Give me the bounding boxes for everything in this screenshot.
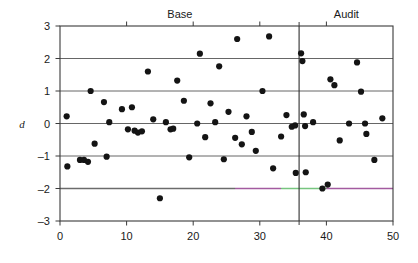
data-point bbox=[92, 141, 98, 147]
data-point bbox=[292, 122, 298, 128]
data-point bbox=[253, 148, 259, 154]
data-point bbox=[163, 119, 169, 125]
y-tick-label: –3 bbox=[38, 215, 50, 227]
x-tick-label: 30 bbox=[254, 230, 266, 242]
data-point bbox=[270, 165, 276, 171]
x-tick-label: 50 bbox=[387, 230, 399, 242]
data-point bbox=[299, 58, 305, 64]
scatter-plot-figure: 010203040503210–1–2–3dBaseAudit bbox=[0, 0, 418, 263]
y-tick-label: 3 bbox=[44, 20, 50, 32]
data-point bbox=[170, 126, 176, 132]
chart-canvas: 010203040503210–1–2–3dBaseAudit bbox=[0, 0, 418, 263]
y-axis-title: d bbox=[19, 118, 25, 130]
data-point bbox=[266, 33, 272, 39]
data-point bbox=[337, 137, 343, 143]
data-point bbox=[197, 51, 203, 57]
panel-label: Base bbox=[167, 8, 192, 20]
data-point bbox=[139, 128, 145, 134]
data-point bbox=[325, 182, 331, 188]
data-point bbox=[243, 113, 249, 119]
data-point bbox=[234, 36, 240, 42]
x-tick-label: 10 bbox=[120, 230, 132, 242]
data-point bbox=[221, 156, 227, 162]
data-point bbox=[362, 120, 368, 126]
data-point bbox=[298, 50, 304, 56]
data-point bbox=[157, 195, 163, 201]
data-point bbox=[331, 82, 337, 88]
x-tick-label: 40 bbox=[320, 230, 332, 242]
data-point bbox=[101, 99, 107, 105]
data-point bbox=[64, 163, 70, 169]
data-point bbox=[119, 106, 125, 112]
data-point bbox=[212, 119, 218, 125]
data-point bbox=[145, 68, 151, 74]
x-tick-label: 0 bbox=[57, 230, 63, 242]
data-point bbox=[358, 89, 364, 95]
data-point bbox=[106, 119, 112, 125]
data-point bbox=[354, 59, 360, 65]
data-point bbox=[181, 98, 187, 104]
panel-label: Audit bbox=[334, 8, 359, 20]
data-point bbox=[249, 129, 255, 135]
data-point bbox=[186, 154, 192, 160]
data-point bbox=[310, 119, 316, 125]
y-tick-label: 2 bbox=[44, 53, 50, 65]
data-point bbox=[259, 88, 265, 94]
data-point bbox=[207, 100, 213, 106]
data-point bbox=[232, 135, 238, 141]
data-point bbox=[104, 154, 110, 160]
data-point bbox=[363, 131, 369, 137]
data-point bbox=[150, 116, 156, 122]
data-point bbox=[88, 88, 94, 94]
data-point bbox=[85, 159, 91, 165]
data-point bbox=[278, 133, 284, 139]
y-tick-label: –2 bbox=[38, 183, 50, 195]
y-tick-label: –1 bbox=[38, 150, 50, 162]
data-point bbox=[216, 63, 222, 69]
data-point bbox=[302, 123, 308, 129]
data-point bbox=[125, 126, 131, 132]
data-point bbox=[301, 111, 307, 117]
y-tick-label: 1 bbox=[44, 85, 50, 97]
data-point bbox=[239, 141, 245, 147]
data-point bbox=[327, 76, 333, 82]
data-point bbox=[346, 120, 352, 126]
data-point bbox=[379, 115, 385, 121]
data-point bbox=[64, 113, 70, 119]
data-point bbox=[283, 112, 289, 118]
data-point bbox=[174, 78, 180, 84]
data-point bbox=[194, 120, 200, 126]
data-point bbox=[129, 104, 135, 110]
data-point bbox=[293, 170, 299, 176]
data-point bbox=[371, 157, 377, 163]
data-point bbox=[202, 134, 208, 140]
data-point bbox=[319, 185, 325, 191]
data-point bbox=[225, 109, 231, 115]
data-point bbox=[303, 169, 309, 175]
x-tick-label: 20 bbox=[187, 230, 199, 242]
y-tick-label: 0 bbox=[44, 118, 50, 130]
